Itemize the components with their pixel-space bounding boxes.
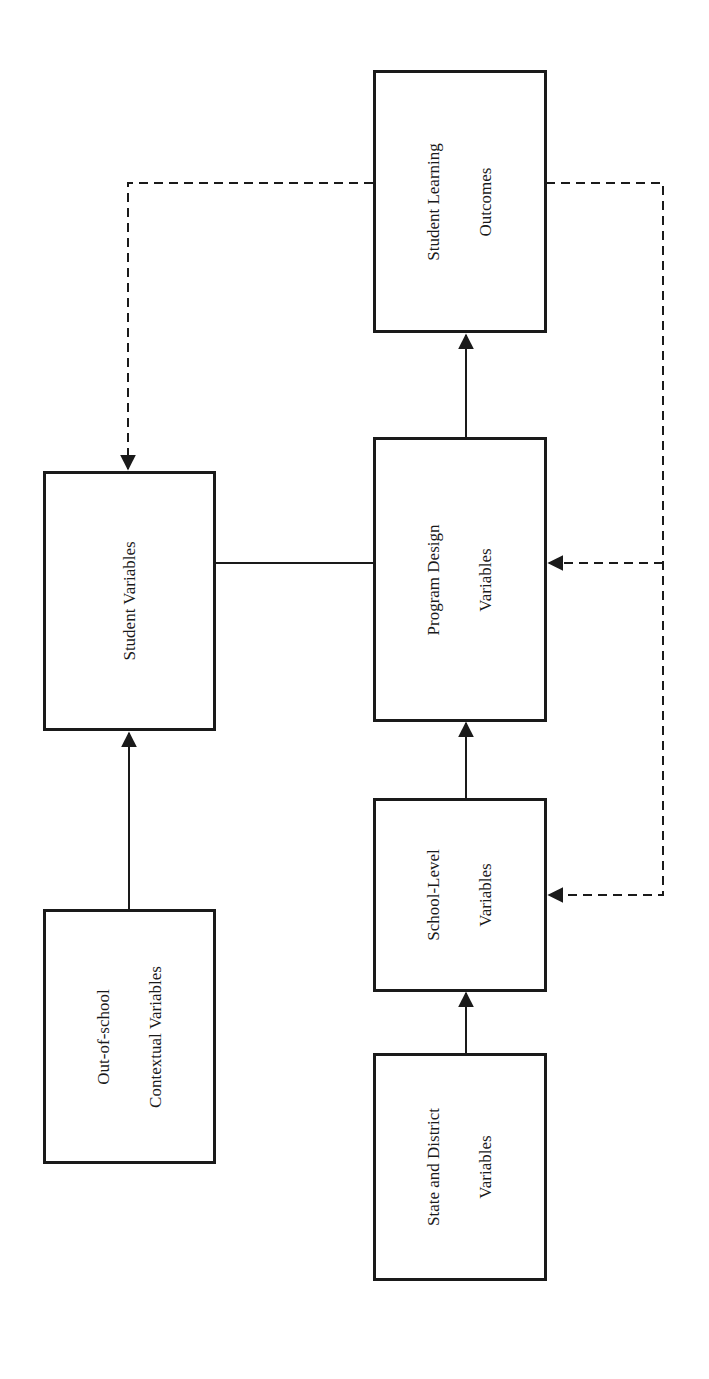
node-label: State and District Variables [408,1108,512,1226]
node-label: Student Learning Outcomes [408,143,512,261]
node-program-design-variables: Program Design Variables [373,437,547,722]
node-label: Student Variables [104,541,156,660]
node-label: Program Design Variables [408,524,512,635]
node-label: Out-of-school Contextual Variables [78,966,182,1108]
node-label: School-Level Variables [408,849,512,941]
node-school-level-variables: School-Level Variables [373,798,547,992]
node-out-of-school-contextual-variables: Out-of-school Contextual Variables [43,909,216,1164]
edge-outcomes-feedback-trunk [546,183,663,895]
edge-outcomes-to-student [128,183,373,469]
node-student-variables: Student Variables [43,471,216,731]
diagram-canvas: Student Learning Outcomes Student Variab… [0,0,709,1379]
node-state-and-district-variables: State and District Variables [373,1053,547,1281]
node-student-learning-outcomes: Student Learning Outcomes [373,70,547,333]
